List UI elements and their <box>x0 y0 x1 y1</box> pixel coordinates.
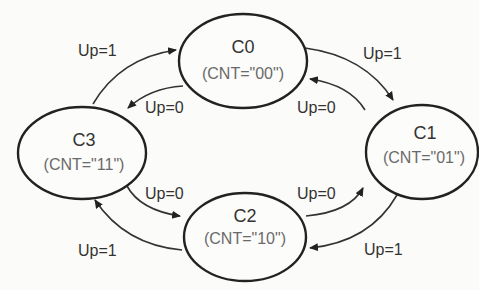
label-c3-c2: Up=0 <box>145 185 184 202</box>
state-c1-output: (CNT="01") <box>383 149 465 166</box>
state-c3-name: C3 <box>72 130 95 150</box>
label-c0-c1: Up=1 <box>363 45 402 62</box>
label-c1-c2: Up=1 <box>364 241 403 258</box>
state-c1-name: C1 <box>413 123 436 143</box>
state-c0-name: C0 <box>231 37 254 57</box>
label-c3-c0: Up=1 <box>78 42 117 59</box>
state-c2-output: (CNT="10") <box>204 230 286 247</box>
label-c2-c3: Up=1 <box>78 242 117 259</box>
state-diagram: Up=1 Up=0 Up=1 Up=0 Up=0 Up=1 Up=0 Up=1 … <box>0 0 479 290</box>
state-c0-output: (CNT="00") <box>202 65 284 82</box>
label-c1-c0: Up=0 <box>297 99 336 116</box>
label-c2-c1: Up=0 <box>297 185 336 202</box>
state-c0: C0 (CNT="00") <box>179 14 307 108</box>
label-c0-c3: Up=0 <box>145 99 184 116</box>
state-c1: C1 (CNT="01") <box>366 105 478 199</box>
state-c2-name: C2 <box>233 206 256 226</box>
state-c3-output: (CNT="11") <box>44 156 125 173</box>
state-c3: C3 (CNT="11") <box>18 107 146 199</box>
state-c2: C2 (CNT="10") <box>184 193 306 281</box>
